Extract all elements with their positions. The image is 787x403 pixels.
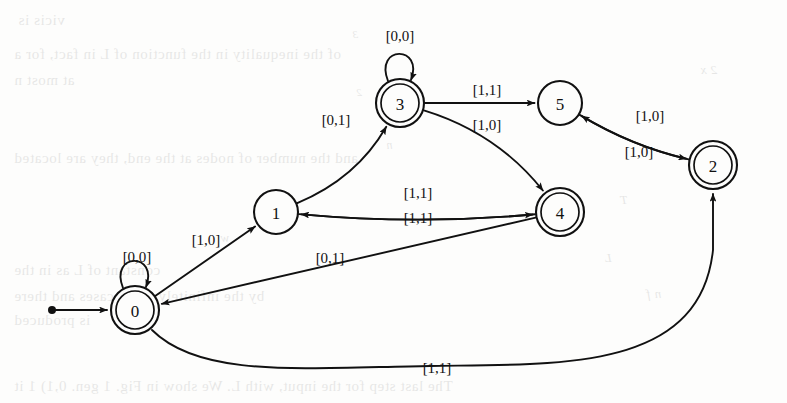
state-label-1: 1	[272, 204, 281, 223]
edge-label-0-1: [1,0]	[192, 232, 221, 248]
edge-path	[386, 54, 414, 81]
state-label-4: 4	[556, 204, 565, 223]
edge-label-4-1: [1,1]	[404, 185, 433, 201]
state-node-2: 2	[689, 141, 737, 189]
scanned-page: vicis isof the inequality in the functio…	[0, 0, 787, 403]
edge-label-4-0: [0,1]	[316, 250, 345, 266]
state-node-0: 0	[111, 286, 159, 334]
automaton-svg: 013524 [0,0][0,0][1,0][0,1][1,1][1,0][1,…	[0, 0, 787, 403]
edge-label-1-4: [1,1]	[404, 210, 433, 226]
start-dot-icon	[48, 306, 56, 314]
edge-label-1-3: [0,1]	[322, 112, 351, 128]
state-label-3: 3	[396, 95, 405, 114]
edge-4-to-0	[162, 218, 536, 304]
edge-label-3-3: [0,0]	[386, 28, 415, 44]
edge-label-5-2: [1,0]	[625, 144, 654, 160]
edge-label-0-2: [1,1]	[423, 360, 452, 376]
edge-3-to-3	[386, 54, 414, 81]
automaton-diagram: 013524 [0,0][0,0][1,0][0,1][1,1][1,0][1,…	[0, 0, 787, 403]
start-marker	[48, 306, 107, 314]
state-label-0: 0	[131, 302, 140, 321]
edge-label-3-5: [1,1]	[473, 82, 502, 98]
edge-label-2-5: [1,0]	[636, 108, 665, 124]
edge-label-3-4: [1,0]	[473, 117, 502, 133]
state-node-1: 1	[254, 190, 298, 234]
edge-label-0-0: [0,0]	[123, 249, 152, 265]
state-label-2: 2	[709, 157, 718, 176]
edge-path	[162, 218, 536, 304]
state-label-5: 5	[556, 95, 565, 114]
state-node-5: 5	[538, 81, 582, 125]
state-node-3: 3	[376, 79, 424, 127]
edge-1-to-3	[297, 127, 386, 203]
state-node-4: 4	[536, 188, 584, 236]
edge-path	[297, 127, 386, 203]
